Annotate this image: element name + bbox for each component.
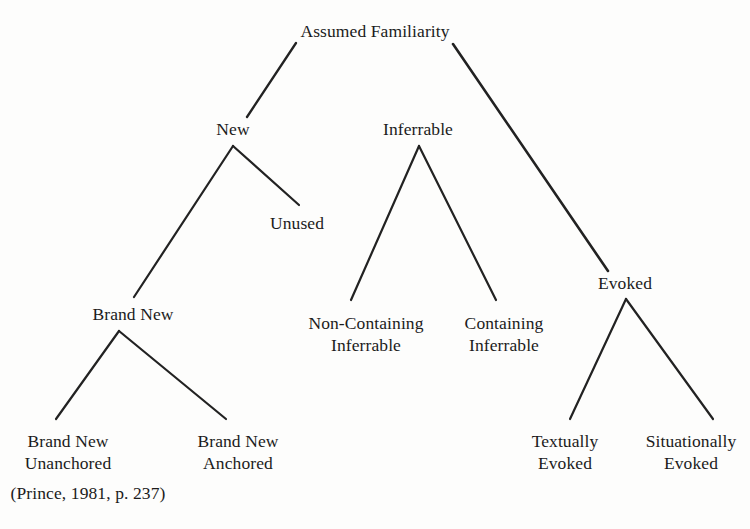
tree-node-evoked: Evoked [598,272,652,294]
node-label-secondary: Inferrable [465,334,544,356]
node-label-primary: Unused [270,213,324,233]
node-label-primary: Inferrable [383,119,453,139]
node-label-primary: Containing [465,313,544,333]
node-label-secondary: Unanchored [25,452,112,474]
node-label-primary: Brand New [197,431,278,451]
edge-evoked-situationally [626,299,713,419]
edge-brandnew-anchored [119,331,226,419]
tree-node-unused: Unused [270,212,324,234]
node-label-secondary: Inferrable [308,334,423,356]
tree-node-brand-new: Brand New [92,303,173,325]
node-label-primary: Evoked [598,273,652,293]
edge-brandnew-unanchored [56,331,119,419]
node-label-primary: Situationally [646,431,737,451]
node-label-secondary: Evoked [646,452,737,474]
tree-node-containing-inferrable: ContainingInferrable [465,312,544,357]
node-label-secondary: Evoked [532,452,599,474]
edge-root-evoked [453,44,608,271]
node-label-primary: New [216,119,249,139]
tree-node-assumed-familiarity: Assumed Familiarity [300,20,449,42]
tree-node-inferrable: Inferrable [383,118,453,140]
node-label-primary: Assumed Familiarity [300,21,449,41]
tree-node-textually-evoked: TextuallyEvoked [532,430,599,475]
diagram-canvas: Assumed FamiliarityNewInferrableEvokedUn… [0,0,750,529]
node-label-primary: Non-Containing [308,313,423,333]
node-label-primary: Brand New [27,431,108,451]
node-label-primary: Brand New [92,304,173,324]
tree-node-situationally-evoked: SituationallyEvoked [646,430,737,475]
source-citation: (Prince, 1981, p. 237) [11,482,166,504]
edge-root-new [247,43,296,117]
edge-new-unused [233,146,299,205]
edge-inferrable-noncontaining [351,146,419,300]
edge-new-brandnew [134,146,233,297]
tree-edges-layer [0,0,750,529]
tree-node-non-containing-inferrable: Non-ContainingInferrable [308,312,423,357]
tree-node-new: New [216,118,249,140]
edge-inferrable-containing [419,146,496,300]
tree-node-brand-new-anchored: Brand NewAnchored [197,430,278,475]
edge-evoked-textually [570,299,626,419]
node-label-primary: Textually [532,431,599,451]
tree-node-brand-new-unanchored: Brand NewUnanchored [25,430,112,475]
node-label-secondary: Anchored [197,452,278,474]
